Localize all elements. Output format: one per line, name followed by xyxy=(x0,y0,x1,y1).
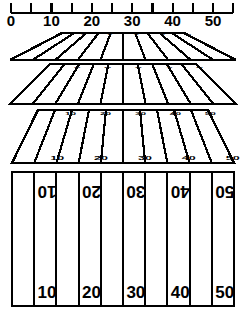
field-plan-view-yard-number-bottom: 50 xyxy=(215,283,234,302)
field-perspective-medium-yard-number-near: 30 xyxy=(138,155,152,161)
field-perspective-medium-yard-number: 40 xyxy=(170,111,181,116)
field-perspective-flattest-yard-number: 40 xyxy=(160,35,165,36)
field-perspective-medium-yard-number: 10 xyxy=(65,111,76,116)
field-perspective-medium-yard-number: 30 xyxy=(135,111,146,116)
field-perspective-flattest-yard-number: 10 xyxy=(81,35,86,36)
ruler-label-50: 50 xyxy=(205,12,222,29)
field-plan-view-yard-number-top: 50 xyxy=(215,182,234,201)
field-perspective-low-yard-number: 50 xyxy=(196,66,203,68)
field-plan-view-yard-number-bottom: 30 xyxy=(126,283,145,302)
ruler-label-10: 10 xyxy=(43,12,60,29)
field-perspective-medium-yard-number-near: 50 xyxy=(226,155,240,161)
ruler-label-20: 20 xyxy=(83,12,100,29)
perspective-football-field-figure: 0102030405010203040501020304050102030405… xyxy=(0,0,246,312)
field-perspective-flattest-yard-number: 20 xyxy=(108,35,113,36)
field-perspective-flattest-yard-number: 50 xyxy=(186,35,191,36)
field-perspective-medium-yard-number: 20 xyxy=(100,111,111,116)
field-perspective-low-yard-number: 40 xyxy=(166,66,173,68)
field-perspective-low-yard-number: 10 xyxy=(74,66,81,68)
figure-canvas: 0102030405010203040501020304050102030405… xyxy=(0,0,246,312)
field-plan-view-yard-number-bottom: 40 xyxy=(171,283,190,302)
ruler-label-40: 40 xyxy=(164,12,181,29)
field-plan-view-yard-number-bottom: 20 xyxy=(82,283,101,302)
field-perspective-medium-yard-number-near: 10 xyxy=(50,155,64,161)
field-perspective-medium-yard-number-near: 40 xyxy=(182,155,196,161)
field-plan-view-yard-number-bottom: 10 xyxy=(38,283,57,302)
field-plan-view-yard-number-top: 40 xyxy=(171,182,190,201)
field-perspective-flattest-yard-number: 30 xyxy=(134,35,139,36)
field-plan-view-yard-number-top: 20 xyxy=(82,182,101,201)
ruler-label-30: 30 xyxy=(124,12,141,29)
field-perspective-low-yard-number: 20 xyxy=(104,66,111,68)
field-perspective-low-yard-number: 30 xyxy=(135,66,142,68)
ruler-label-0: 0 xyxy=(7,12,15,29)
field-perspective-medium-yard-number: 50 xyxy=(205,111,216,116)
field-perspective-medium-yard-number-near: 20 xyxy=(94,155,108,161)
field-plan-view-yard-number-top: 10 xyxy=(38,182,57,201)
field-plan-view-yard-number-top: 30 xyxy=(126,182,145,201)
